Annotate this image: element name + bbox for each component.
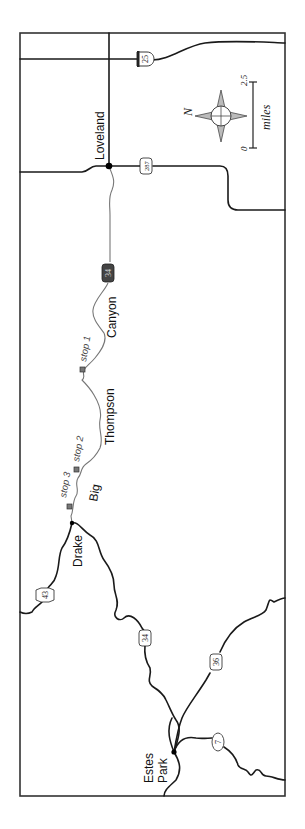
- map-canvas: 34 Loveland Drake Estes Park Canyon Thom…: [0, 0, 305, 829]
- road-i25-east: [152, 41, 285, 60]
- road-loveland-west: [20, 166, 109, 172]
- shield-co43: 43: [36, 588, 54, 602]
- svg-text:25: 25: [141, 55, 150, 63]
- shield-us34: 34: [139, 630, 151, 646]
- road-us34: [72, 523, 179, 752]
- label-big: Big: [86, 483, 103, 503]
- road-estes-north: [169, 718, 174, 752]
- scale-label-start: 0: [239, 146, 249, 151]
- compass-rose: [195, 90, 247, 142]
- road-us36: [174, 598, 285, 752]
- town-dot-drake: [70, 521, 74, 525]
- stop-marker-2[interactable]: [74, 467, 79, 472]
- shield-i25: 25: [137, 51, 154, 67]
- compass-north-label: N: [181, 107, 195, 117]
- svg-text:43: 43: [41, 591, 50, 599]
- svg-text:7: 7: [214, 740, 223, 744]
- stop-marker-1[interactable]: [80, 367, 85, 372]
- stop-label-2: stop 2: [70, 434, 85, 462]
- town-label-drake: Drake: [71, 535, 85, 567]
- svg-text:34: 34: [141, 634, 150, 642]
- stop-label-1: stop 1: [77, 335, 92, 362]
- stop-label-3: stop 3: [57, 470, 72, 498]
- label-thompson: Thompson: [103, 388, 117, 445]
- svg-text:36: 36: [212, 658, 221, 666]
- town-dot-estes-park: [171, 749, 176, 754]
- road-co7: [174, 738, 285, 780]
- road-us287-east: [153, 166, 285, 210]
- town-label-loveland: Loveland: [93, 111, 107, 160]
- shield-co7: 7: [212, 733, 224, 751]
- scale-bar: [249, 82, 257, 148]
- scale-label-unit: miles: [259, 104, 273, 130]
- town-label-estes: Estes: [142, 753, 156, 783]
- stop-marker-3[interactable]: [67, 504, 72, 509]
- shield-us287: 287: [140, 158, 152, 174]
- svg-text:287: 287: [143, 160, 150, 171]
- shield-us36: 36: [210, 654, 222, 670]
- shield-us34-highlighted: 34: [102, 264, 114, 282]
- scale-label-end: 2.5: [239, 74, 249, 86]
- label-canyon: Canyon: [105, 297, 119, 338]
- town-dot-loveland: [106, 163, 113, 170]
- town-label-park: Park: [156, 757, 170, 783]
- svg-text:34: 34: [104, 269, 113, 277]
